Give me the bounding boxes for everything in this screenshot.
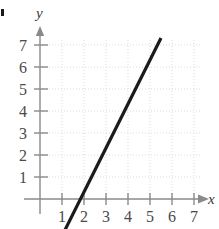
graph-figure: y x 1 2 3 4 5 6 7 1 2 3 4 5 6 7 — [0, 0, 219, 229]
y-axis-label: y — [36, 6, 43, 21]
x-tick-label-2: 2 — [76, 209, 92, 225]
y-tick-label-3: 3 — [15, 126, 31, 142]
x-axis — [24, 195, 209, 204]
y-tick-label-4: 4 — [15, 104, 31, 120]
x-tick-label-3: 3 — [98, 209, 114, 225]
y-tick-label-2: 2 — [15, 148, 31, 164]
x-tick-label-4: 4 — [120, 209, 136, 225]
y-tick-label-5: 5 — [15, 82, 31, 98]
y-axis-ticks — [34, 45, 48, 177]
grid-horizontal — [40, 45, 200, 177]
x-tick-label-6: 6 — [164, 209, 180, 225]
y-tick-label-6: 6 — [15, 60, 31, 76]
grid-vertical — [62, 40, 194, 199]
x-tick-label-7: 7 — [186, 209, 202, 225]
x-tick-label-5: 5 — [142, 209, 158, 225]
coordinate-plot — [0, 0, 219, 229]
y-tick-label-7: 7 — [15, 38, 31, 54]
y-tick-label-1: 1 — [15, 170, 31, 186]
x-tick-label-1: 1 — [54, 209, 70, 225]
y-axis — [36, 26, 44, 214]
x-axis-label: x — [208, 192, 215, 207]
